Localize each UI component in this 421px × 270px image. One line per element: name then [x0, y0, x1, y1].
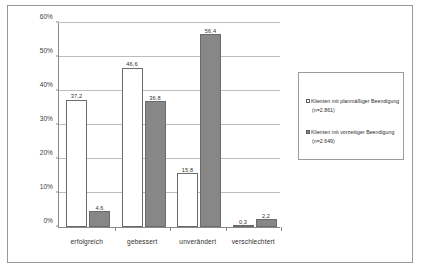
bar-group: 0,32,2verschlechtert — [226, 23, 282, 227]
bar[interactable]: 37,2 — [66, 100, 87, 227]
bar[interactable]: 4,6 — [89, 211, 110, 227]
x-axis-tick-mark — [115, 227, 116, 231]
x-axis-category-label: verschlechtert — [232, 238, 275, 245]
bar[interactable]: 36,8 — [145, 101, 166, 227]
x-axis-tick-mark — [226, 227, 227, 231]
y-axis-tick-label: 40% — [40, 81, 53, 88]
y-axis-tick-label: 30% — [40, 115, 53, 122]
bar-value-label: 56,4 — [205, 28, 216, 34]
x-axis-tick-mark — [281, 227, 282, 231]
y-axis-tick-label: 20% — [40, 149, 53, 156]
bar-value-label: 4,6 — [95, 205, 103, 211]
bar[interactable]: 2,2 — [256, 219, 277, 227]
y-axis-tick-label: 50% — [40, 47, 53, 54]
legend-entry-label: Klienten mit planmäßiger Beendigung — [311, 98, 399, 104]
legend-entry-sublabel: (n=2.649) — [312, 137, 400, 146]
bar-group: 15,856,4unverändert — [170, 23, 226, 227]
bar[interactable]: 15,8 — [177, 173, 198, 227]
x-axis-category-label: unverändert — [179, 238, 216, 245]
y-axis-tick-label: 10% — [40, 183, 53, 190]
bar[interactable]: 56,4 — [200, 34, 221, 227]
y-axis-tick-label: 60% — [40, 13, 53, 20]
y-axis-tick-label: 0% — [43, 217, 53, 224]
legend-entry[interactable]: Klienten mit vorzeitiger Beendigung (n=2… — [306, 128, 400, 146]
chart-legend: Klienten mit planmäßiger Beendigung (n=2… — [298, 72, 404, 160]
x-axis-tick-mark — [170, 227, 171, 231]
x-axis-category-label: erfolgreich — [71, 238, 103, 245]
bar-value-label: 37,2 — [71, 93, 82, 99]
bar-value-label: 36,8 — [149, 95, 160, 101]
dark-square-swatch-icon — [306, 130, 310, 134]
chart-figure-frame: 0%10%20%30%40%50%60% 37,24,6erfolgreich4… — [7, 5, 413, 263]
legend-entry[interactable]: Klienten mit planmäßiger Beendigung (n=2… — [306, 97, 400, 115]
bar-value-label: 2,2 — [262, 213, 270, 219]
plot-area: 0%10%20%30%40%50%60% 37,24,6erfolgreich4… — [58, 23, 280, 228]
bar-group: 37,24,6erfolgreich — [59, 23, 115, 227]
bar[interactable]: 0,3 — [233, 225, 254, 227]
legend-entry-label: Klienten mit vorzeitiger Beendigung — [311, 129, 394, 135]
bar-value-label: 0,3 — [239, 219, 247, 225]
legend-entry-sublabel: (n=2.861) — [312, 106, 400, 115]
bar-value-label: 15,8 — [182, 167, 193, 173]
light-square-swatch-icon — [306, 99, 310, 103]
bar-group: 46,636,8gebessert — [115, 23, 171, 227]
bar[interactable]: 46,6 — [122, 68, 143, 227]
bar-value-label: 46,6 — [126, 61, 137, 67]
x-axis-category-label: gebessert — [127, 238, 157, 245]
